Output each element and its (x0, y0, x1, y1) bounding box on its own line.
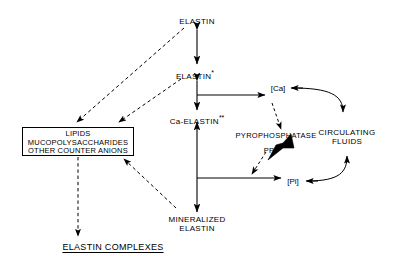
circulating-fluids-line2: FLUIDS (319, 137, 376, 146)
node-mineralized-elastin-line2: ELASTIN (168, 224, 225, 233)
node-mineralized-elastin: MINERALIZED ELASTIN (168, 215, 225, 233)
node-counter-anions-box: LIPIDS MUCOPOLYSACCHARIDES OTHER COUNTER… (22, 127, 134, 156)
diagram-canvas: ELASTIN ELASTIN* Ca-ELASTIN** MINERALIZE… (0, 0, 395, 267)
node-pyrophosphatase: PYROPHOSPHATASE (236, 131, 317, 140)
node-elastin-complexes: ELASTIN COMPLEXES (62, 243, 163, 252)
node-elastin-label: ELASTIN (179, 17, 214, 26)
node-ppi-label: PPi (264, 146, 277, 155)
node-ca-elastin-superscript: ** (219, 114, 224, 121)
edge-elastin-to-anion-box (77, 28, 184, 122)
node-elastin-star-label: ELASTIN (176, 72, 211, 81)
node-pyrophosphatase-label: PYROPHOSPHATASE (236, 131, 317, 140)
node-elastin: ELASTIN (179, 17, 214, 26)
node-elastin-complexes-label: ELASTIN COMPLEXES (62, 242, 163, 252)
node-pi-bracket-label: [Pi] (287, 177, 299, 186)
edge-pi-to-circulating (307, 156, 347, 181)
edge-ppi-to-pathway (252, 152, 266, 174)
node-ca-elastin: Ca-ELASTIN** (170, 113, 225, 126)
edge-circulating-to-ca (292, 88, 343, 112)
circulating-fluids-line1: CIRCULATING (319, 128, 376, 137)
node-elastin-star-superscript: * (211, 69, 214, 76)
node-ca-bracket: [Ca] (271, 84, 286, 93)
edge-mineralized-to-anion-box (124, 159, 176, 208)
edge-ca-to-circulating (292, 88, 343, 112)
node-ppi: PPi (264, 146, 277, 155)
node-mineralized-elastin-line1: MINERALIZED (168, 215, 225, 224)
node-ca-bracket-label: [Ca] (271, 84, 286, 93)
node-pi-bracket: [Pi] (287, 177, 299, 186)
edge-ca-to-pyrophosphatase (272, 103, 281, 129)
counter-anions-line3: OTHER COUNTER ANIONS (27, 147, 129, 156)
node-ca-elastin-label: Ca-ELASTIN (170, 117, 219, 126)
node-elastin-star: ELASTIN* (176, 68, 214, 81)
node-circulating-fluids: CIRCULATING FLUIDS (319, 128, 376, 146)
